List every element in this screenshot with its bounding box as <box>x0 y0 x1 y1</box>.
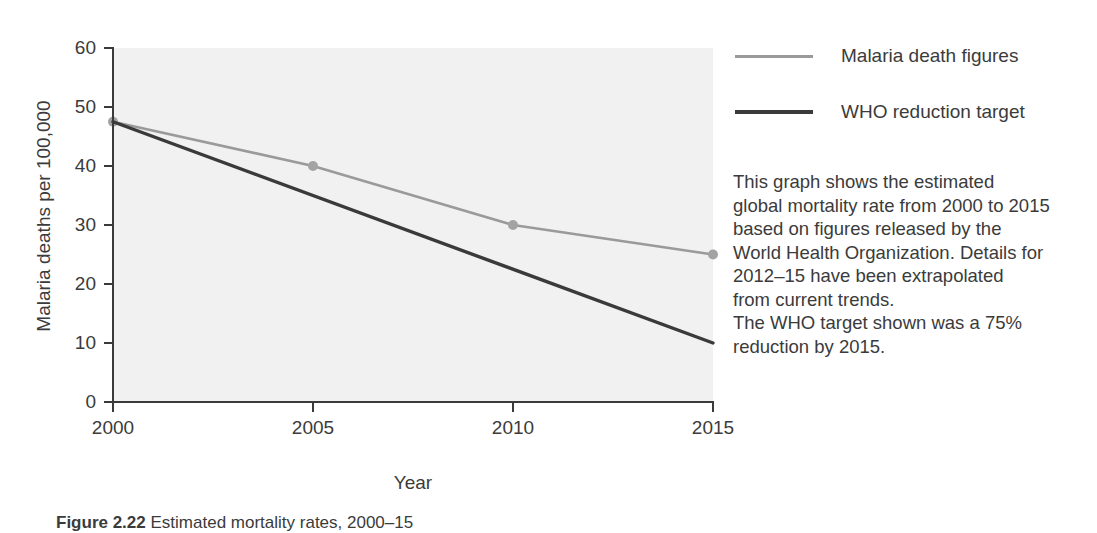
figure-caption: Figure 2.22 Estimated mortality rates, 2… <box>56 513 413 533</box>
series-line <box>113 122 713 343</box>
plot-svg <box>113 48 713 402</box>
description-line: global mortality rate from 2000 to 2015 <box>733 194 1083 218</box>
figure-description: This graph shows the estimatedglobal mor… <box>733 170 1083 358</box>
y-tick-mark <box>104 165 113 167</box>
series-data-point <box>508 220 518 230</box>
y-tick-mark <box>104 47 113 49</box>
description-line: based on figures released by the <box>733 217 1083 241</box>
series-data-point <box>708 250 718 260</box>
y-axis-title: Malaria deaths per 100,000 <box>33 86 55 346</box>
description-line: from current trends. <box>733 288 1083 312</box>
series-line <box>113 122 713 255</box>
y-tick-label: 30 <box>50 215 96 234</box>
x-tick-mark <box>112 402 114 412</box>
description-line: This graph shows the estimated <box>733 170 1083 194</box>
y-tick-mark <box>104 283 113 285</box>
x-tick-mark <box>712 402 714 412</box>
legend-item-label: WHO reduction target <box>841 101 1025 123</box>
x-tick-label: 2000 <box>68 418 158 437</box>
x-tick-mark <box>312 402 314 412</box>
description-line: World Health Organization. Details for <box>733 241 1083 265</box>
y-tick-label: 10 <box>50 333 96 352</box>
figure-caption-text: Estimated mortality rates, 2000–15 <box>151 513 414 532</box>
x-axis-title: Year <box>113 472 713 494</box>
legend-item-malaria-death-figures: Malaria death figures <box>735 28 1085 84</box>
x-tick-label: 2010 <box>468 418 558 437</box>
y-tick-label: 50 <box>50 97 96 116</box>
description-line: The WHO target shown was a 75% <box>733 311 1083 335</box>
y-tick-label: 20 <box>50 274 96 293</box>
x-tick-label: 2005 <box>268 418 358 437</box>
description-line: reduction by 2015. <box>733 335 1083 359</box>
legend-item-who-reduction-target: WHO reduction target <box>735 84 1085 140</box>
x-tick-mark <box>512 402 514 412</box>
y-tick-mark <box>104 224 113 226</box>
y-tick-mark <box>104 342 113 344</box>
y-tick-label: 0 <box>50 392 96 411</box>
series-data-point <box>308 161 318 171</box>
y-tick-label: 40 <box>50 156 96 175</box>
x-tick-label: 2015 <box>668 418 758 437</box>
plot-area <box>113 48 713 402</box>
y-tick-label: 60 <box>50 38 96 57</box>
series-layer <box>108 117 718 343</box>
legend-item-label: Malaria death figures <box>841 45 1018 67</box>
y-tick-mark <box>104 106 113 108</box>
x-axis-line <box>112 401 714 403</box>
legend-line-swatch-icon <box>735 110 813 114</box>
figure-caption-label: Figure 2.22 <box>56 513 146 532</box>
description-line: 2012–15 have been extrapolated <box>733 264 1083 288</box>
chart-legend: Malaria death figures WHO reduction targ… <box>735 28 1085 140</box>
legend-line-swatch-icon <box>735 55 813 58</box>
